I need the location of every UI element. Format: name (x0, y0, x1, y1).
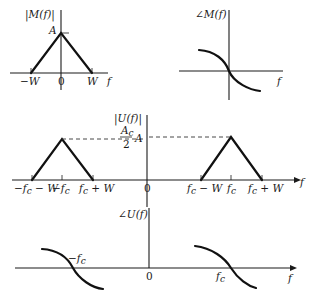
panel-m-magnitude: |M(f)| A −W 0 W f (10, 8, 113, 90)
u-phase-zero-label: 0 (146, 270, 153, 282)
u-phase-neg-fc-label: −fc (68, 252, 86, 266)
u-mag-tick-label-fc-plus-w-left: fc + W (78, 182, 115, 196)
t-sub: c (65, 186, 70, 196)
u-mag-left-triangle (32, 139, 93, 180)
u-phase-ylabel: ∠U(f) (118, 208, 148, 220)
u-mag-peak-num-sub: c (129, 128, 134, 138)
u-mag-tick-label-neg-fc: −fc (52, 182, 70, 196)
t-tail: + W (88, 182, 115, 194)
u-mag-tick-label-fc-minus-w: fc − W (186, 182, 223, 196)
u-mag-peak-suffix: A (134, 132, 143, 144)
modulation-spectrum-diagram: |M(f)| A −W 0 W f ∠M(f) f |U(f)| Ac 2 A (0, 0, 312, 308)
m-mag-tick-label-w: W (87, 75, 99, 87)
panel-u-magnitude: |U(f)| Ac 2 A −fc − W −fc fc + W 0 fc − … (12, 112, 306, 207)
u-mag-peak-den: 2 (123, 138, 130, 150)
panel-m-phase: ∠M(f) f (179, 8, 283, 100)
t-sub: c (81, 256, 86, 266)
u-mag-tick-label-fc-plus-w-right: fc + W (247, 182, 284, 196)
panel-u-phase: ∠U(f) −fc 0 fc f (15, 208, 297, 289)
m-mag-tick-label-neg-w: −W (20, 75, 41, 87)
u-mag-xlabel: f (299, 176, 306, 188)
m-phase-xlabel: f (276, 75, 283, 87)
m-phase-ylabel: ∠M(f) (195, 8, 227, 20)
t-sub: c (220, 274, 225, 284)
t-tail: − W (196, 182, 223, 194)
u-phase-right-curve (195, 246, 256, 288)
m-mag-tick-label-zero: 0 (58, 75, 65, 87)
m-mag-xlabel: f (106, 75, 113, 87)
u-mag-tick-label-fc: fc (226, 182, 236, 196)
m-mag-peak-label: A (48, 24, 57, 36)
t-tail: + W (257, 182, 284, 194)
u-mag-peak-num: Ac (120, 124, 134, 138)
u-phase-xlabel: f (287, 272, 294, 284)
u-phase-fc-label: fc (215, 270, 225, 284)
t-sub: c (231, 186, 236, 196)
u-phase-x-arrow-icon (290, 265, 297, 271)
u-mag-tick-label-zero: 0 (144, 182, 151, 194)
u-mag-right-triangle (201, 137, 262, 180)
m-mag-ylabel: |M(f)| (25, 8, 55, 22)
